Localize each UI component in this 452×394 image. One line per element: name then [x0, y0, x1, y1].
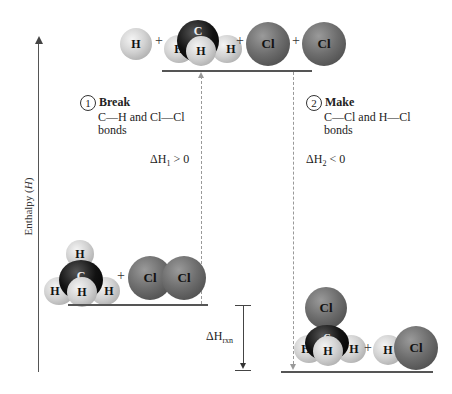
- left-energy-level: [68, 304, 208, 306]
- chlorine-atom: Cl: [302, 22, 346, 66]
- up-arrowhead-icon: [198, 72, 204, 78]
- plus-sign: +: [236, 33, 244, 49]
- step1-label: 1Break C—H and Cl—Cl bonds: [80, 95, 185, 137]
- step1-number: 1: [80, 95, 96, 111]
- hydrogen-atom: H: [186, 36, 216, 66]
- step2-label: 2Make C—Cl and H—Cl bonds: [306, 95, 411, 137]
- step1-title: Break: [99, 95, 130, 109]
- delta-h1: ΔH1 > 0: [150, 153, 189, 170]
- chlorine-atom: Cl: [305, 287, 347, 329]
- step2-number: 2: [306, 95, 322, 111]
- rxn-bracket-line: [243, 305, 244, 367]
- plus-sign: +: [155, 33, 163, 49]
- delta-h2: ΔH2 < 0: [306, 153, 345, 170]
- step2-title: Make: [325, 95, 354, 109]
- plus-sign: +: [292, 33, 300, 49]
- hydrogen-atom: H: [67, 277, 97, 307]
- top-energy-level: [162, 70, 312, 72]
- hydrogen-atom: H: [313, 336, 343, 366]
- axis-label: Enthalpy (H): [22, 157, 35, 257]
- plus-sign: +: [364, 340, 372, 356]
- chlorine-atom: Cl: [394, 326, 438, 370]
- enthalpy-axis: [38, 42, 39, 372]
- chlorine-atom: Cl: [246, 22, 290, 66]
- hydrogen-atom: H: [120, 28, 152, 60]
- rxn-arrowhead-icon: [240, 363, 246, 369]
- chlorine-atom: Cl: [162, 256, 206, 300]
- plus-sign: +: [117, 268, 125, 284]
- down-arrowhead-icon: [290, 364, 296, 370]
- axis-arrowhead-icon: [35, 36, 43, 44]
- rxn-bottom-tick: [235, 370, 251, 371]
- delta-h-rxn: ΔHrxn: [206, 330, 233, 347]
- make-arrow: [293, 72, 294, 364]
- right-energy-level: [281, 371, 433, 373]
